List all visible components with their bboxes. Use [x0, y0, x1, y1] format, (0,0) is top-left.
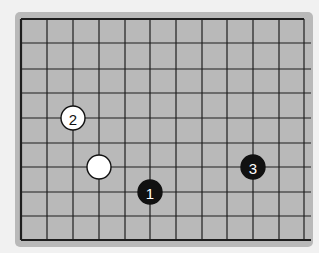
move-number: 3: [249, 160, 257, 177]
move-number: 1: [146, 185, 154, 202]
white-stone[interactable]: [87, 155, 111, 179]
move-number: 2: [69, 111, 77, 128]
black-stone-1[interactable]: 1: [138, 180, 162, 204]
black-stone-3[interactable]: 3: [241, 155, 265, 179]
board-grid[interactable]: 213: [0, 0, 319, 253]
white-stone-2[interactable]: 2: [61, 106, 85, 130]
